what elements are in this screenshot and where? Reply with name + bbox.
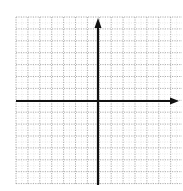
coordinate-plane [0,0,183,191]
x-axis-arrowhead-icon [170,98,179,105]
coordinate-grid [0,0,183,191]
